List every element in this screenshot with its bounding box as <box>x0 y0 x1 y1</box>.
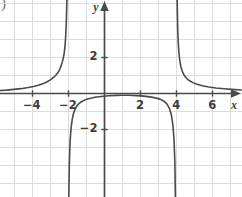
x-tick-label-4: 6 <box>208 98 216 112</box>
x-tick-label-1: −2 <box>59 98 77 112</box>
y-axis-name: y <box>93 0 98 15</box>
x-tick-label-3: 4 <box>172 98 180 112</box>
graph-figure: ) −4−22462−2xy <box>0 0 242 197</box>
x-tick-label-0: −4 <box>23 98 41 112</box>
y-tick-label-0: 2 <box>89 49 97 63</box>
y-tick-label-1: −2 <box>80 121 98 135</box>
x-tick-label-2: 2 <box>136 98 144 112</box>
x-axis-name: x <box>231 98 237 113</box>
